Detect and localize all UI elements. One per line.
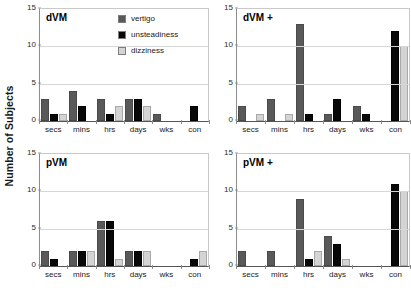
bar-group bbox=[152, 154, 180, 266]
y-tick-label: 10 bbox=[224, 186, 233, 194]
x-tick-label-wks: wks bbox=[152, 126, 180, 134]
x-tick-mark bbox=[209, 120, 210, 124]
bar-group bbox=[237, 154, 266, 266]
x-tick-label-mins: mins bbox=[67, 126, 95, 134]
bar-vertigo-secs bbox=[238, 251, 246, 266]
x-tick-label-con: con bbox=[181, 271, 209, 279]
bar-group bbox=[180, 9, 208, 121]
bar-group bbox=[180, 154, 208, 266]
y-tick-label: 5 bbox=[32, 224, 36, 232]
legend-item-vertigo: vertigo bbox=[118, 14, 178, 23]
bar-unsteadiness-mins bbox=[78, 251, 86, 266]
x-tick-mark bbox=[352, 120, 353, 124]
y-axis-title: Number of Subjects bbox=[3, 86, 15, 187]
y-tick-label: 15 bbox=[27, 4, 36, 12]
x-axis-tickmarks-dvm-plus bbox=[236, 120, 410, 124]
y-axis-ticks-pvm: 051015 bbox=[18, 149, 38, 269]
x-tick-label-mins: mins bbox=[265, 271, 294, 279]
x-axis-pvm: secsminshrsdayswkscon bbox=[39, 265, 209, 291]
x-tick-mark bbox=[152, 265, 153, 269]
bar-vertigo-secs bbox=[238, 106, 246, 121]
bar-group bbox=[96, 154, 124, 266]
bar-vertigo-hrs bbox=[97, 99, 105, 121]
y-tick-label: 0 bbox=[229, 116, 233, 124]
y-tick-label: 0 bbox=[32, 116, 36, 124]
bar-dizziness-hrs bbox=[115, 106, 123, 121]
bar-unsteadiness-days bbox=[134, 99, 142, 121]
y-tick-label: 5 bbox=[229, 224, 233, 232]
x-tick-mark bbox=[181, 120, 182, 124]
figure: Number of Subjects 051015 dVM vertigo bbox=[0, 0, 411, 295]
y-tick-label: 0 bbox=[229, 261, 233, 269]
x-tick-mark bbox=[236, 265, 237, 269]
x-tick-mark bbox=[352, 265, 353, 269]
x-tick-mark bbox=[381, 265, 382, 269]
legend-item-unsteadiness: unsteadiness bbox=[118, 30, 178, 39]
plot-area-dvm: dVM vertigo unsteadiness dizziness bbox=[39, 8, 209, 122]
x-tick-mark bbox=[323, 265, 324, 269]
x-axis-dvm: secsminshrsdayswkscon bbox=[39, 120, 209, 146]
gridline bbox=[237, 191, 409, 192]
y-tick-label: 10 bbox=[27, 41, 36, 49]
x-tick-mark bbox=[67, 265, 68, 269]
x-tick-label-con: con bbox=[181, 126, 209, 134]
x-axis-labels-dvm: secsminshrsdayswkscon bbox=[39, 126, 209, 134]
x-tick-label-secs: secs bbox=[39, 126, 67, 134]
bar-group bbox=[380, 9, 409, 121]
bar-groups-dvm-plus bbox=[237, 9, 409, 121]
y-tick-label: 5 bbox=[229, 79, 233, 87]
x-tick-mark bbox=[67, 120, 68, 124]
legend-label-unsteadiness: unsteadiness bbox=[131, 31, 178, 39]
x-tick-mark bbox=[294, 120, 295, 124]
bar-vertigo-secs bbox=[41, 99, 49, 121]
bar-dizziness-days bbox=[143, 106, 151, 121]
legend-swatch-dizziness bbox=[118, 47, 126, 55]
y-axis-ticks-pvm-plus: 051015 bbox=[215, 149, 235, 269]
bar-group bbox=[380, 154, 409, 266]
x-tick-label-wks: wks bbox=[352, 271, 381, 279]
x-axis-labels-pvm: secsminshrsdayswkscon bbox=[39, 271, 209, 279]
x-tick-label-hrs: hrs bbox=[294, 126, 323, 134]
panel-pvm: 051015 pVM secsminshrsdayswkscon bbox=[18, 149, 210, 292]
y-tick-label: 15 bbox=[224, 4, 233, 12]
panel-title-dvm-plus: dVM + bbox=[243, 12, 273, 23]
bar-group bbox=[68, 9, 96, 121]
y-axis-ticks-dvm: 051015 bbox=[18, 4, 38, 124]
chart-legend: vertigo unsteadiness dizziness bbox=[118, 14, 178, 62]
bar-group bbox=[294, 154, 323, 266]
bar-group bbox=[40, 9, 68, 121]
bar-group bbox=[266, 9, 295, 121]
x-tick-mark bbox=[39, 120, 40, 124]
bar-vertigo-days bbox=[125, 251, 133, 266]
x-tick-label-secs: secs bbox=[236, 271, 265, 279]
legend-label-vertigo: vertigo bbox=[131, 15, 155, 23]
legend-item-dizziness: dizziness bbox=[118, 46, 178, 55]
legend-label-dizziness: dizziness bbox=[131, 47, 164, 55]
panel-title-dvm: dVM bbox=[46, 12, 67, 23]
gridline bbox=[237, 46, 409, 47]
plot-area-pvm: pVM bbox=[39, 153, 209, 267]
x-tick-label-hrs: hrs bbox=[294, 271, 323, 279]
bar-vertigo-days bbox=[125, 99, 133, 121]
bar-group bbox=[323, 154, 352, 266]
x-tick-label-wks: wks bbox=[352, 126, 381, 134]
x-tick-mark bbox=[181, 265, 182, 269]
x-tick-mark bbox=[294, 265, 295, 269]
bar-dizziness-hrs bbox=[314, 251, 322, 266]
y-axis-title-container: Number of Subjects bbox=[0, 0, 18, 272]
bar-vertigo-mins bbox=[267, 251, 275, 266]
x-tick-label-days: days bbox=[323, 271, 352, 279]
x-tick-label-days: days bbox=[124, 271, 152, 279]
y-tick-label: 10 bbox=[27, 186, 36, 194]
bar-group bbox=[237, 9, 266, 121]
bar-groups-pvm-plus bbox=[237, 154, 409, 266]
x-tick-label-hrs: hrs bbox=[96, 126, 124, 134]
gridline bbox=[237, 84, 409, 85]
bar-dizziness-con bbox=[199, 251, 207, 266]
x-tick-mark bbox=[152, 120, 153, 124]
x-tick-label-days: days bbox=[124, 126, 152, 134]
x-tick-label-hrs: hrs bbox=[96, 271, 124, 279]
bar-vertigo-mins bbox=[267, 99, 275, 121]
y-axis-ticks-dvm-plus: 051015 bbox=[215, 4, 235, 124]
x-axis-labels-dvm-plus: secsminshrsdayswkscon bbox=[236, 126, 410, 134]
